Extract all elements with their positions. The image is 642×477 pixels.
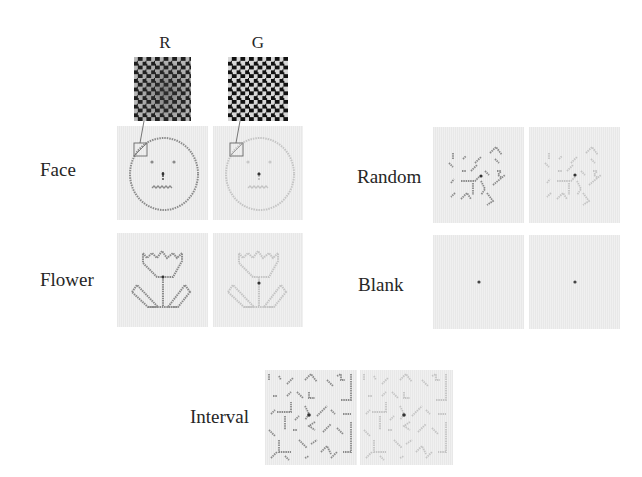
flower-r-panel (117, 233, 208, 327)
random-g-drawing (529, 127, 620, 223)
face-r-drawing (117, 126, 208, 220)
label-random: Random (357, 167, 421, 186)
random-r-drawing (433, 127, 524, 223)
column-label-g: G (252, 34, 264, 51)
interval-r-drawing (265, 370, 357, 465)
interval-r-panel (265, 370, 357, 465)
interval-g-drawing (360, 370, 453, 465)
flower-g-drawing (213, 233, 303, 327)
label-interval: Interval (190, 407, 249, 426)
face-r-panel (117, 126, 208, 220)
magnified-inset-g (228, 57, 288, 121)
face-g-drawing (213, 126, 303, 220)
random-r-panel (433, 127, 524, 223)
magnified-inset-r (134, 57, 191, 121)
blank-g-drawing (529, 235, 620, 329)
label-flower: Flower (40, 270, 94, 289)
flower-r-drawing (117, 233, 208, 327)
face-g-panel (213, 126, 303, 220)
random-g-panel (529, 127, 620, 223)
column-label-r: R (159, 34, 170, 51)
blank-r-panel (433, 235, 524, 329)
flower-g-panel (213, 233, 303, 327)
blank-r-drawing (433, 235, 524, 329)
blank-g-panel (529, 235, 620, 329)
label-blank: Blank (358, 275, 403, 294)
interval-g-panel (360, 370, 453, 465)
label-face: Face (40, 160, 76, 179)
